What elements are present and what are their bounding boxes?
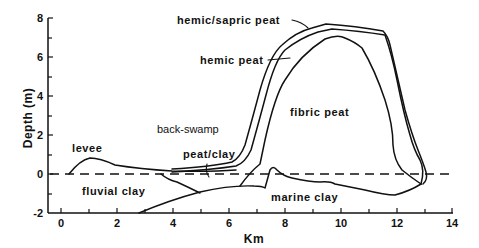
x-tick-label: 12 bbox=[391, 217, 403, 229]
cross-section-diagram: 8 6 4 2 0 -2 0 2 4 6 8 10 12 14 Km Depth… bbox=[0, 0, 479, 248]
marine-clay-label: marine clay bbox=[271, 191, 338, 203]
back-swamp-label: back-swamp bbox=[157, 123, 219, 135]
y-tick-label: -2 bbox=[33, 207, 43, 219]
y-tick-label: 0 bbox=[37, 168, 43, 180]
peat-clay-label: peat/clay bbox=[183, 148, 236, 160]
x-tick-label: 0 bbox=[58, 217, 64, 229]
fibric-peat-label: fibric peat bbox=[290, 106, 349, 118]
axes: 8 6 4 2 0 -2 0 2 4 6 8 10 12 14 Km Depth… bbox=[21, 12, 459, 246]
fluvial-clay-label: fluvial clay bbox=[82, 185, 146, 197]
hemic-sapric-peat-leader bbox=[292, 20, 308, 28]
hemic-sapric-peat-top-line bbox=[172, 24, 427, 184]
x-tick-label: 10 bbox=[335, 217, 347, 229]
y-tick-label: 4 bbox=[37, 90, 44, 102]
x-tick-label: 14 bbox=[446, 217, 459, 229]
x-axis-title: Km bbox=[244, 232, 264, 246]
x-tick-label: 8 bbox=[282, 217, 288, 229]
levee-label: levee bbox=[72, 142, 103, 154]
y-tick-label: 8 bbox=[37, 12, 43, 24]
x-tick-label: 6 bbox=[226, 217, 232, 229]
peat-clay-base-line bbox=[161, 174, 200, 193]
x-tick-label: 2 bbox=[114, 217, 120, 229]
y-axis-title: Depth (m) bbox=[21, 88, 35, 149]
hemic-sapric-peat-label: hemic/sapric peat bbox=[177, 14, 280, 26]
y-tick-label: 6 bbox=[37, 51, 43, 63]
y-tick-label: 2 bbox=[37, 129, 43, 141]
hemic-peat-label: hemic peat bbox=[200, 54, 263, 66]
x-tick-label: 4 bbox=[170, 217, 177, 229]
